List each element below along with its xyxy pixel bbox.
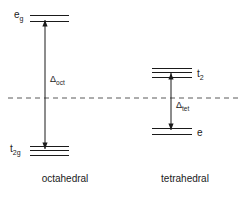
t2-level-label: t2 xyxy=(197,68,204,81)
delta-oct-subscript: oct xyxy=(56,79,65,86)
delta-tet-arrow xyxy=(168,73,173,130)
arrow-head-up xyxy=(168,73,173,80)
octahedral-caption: octahedral xyxy=(42,173,89,184)
t2g-level-label: t2g xyxy=(10,143,21,157)
tetrahedral-caption: tetrahedral xyxy=(161,173,209,184)
e-label-base: e xyxy=(197,127,203,138)
e-level-lines xyxy=(152,128,192,134)
t2g-level-lines xyxy=(30,146,69,155)
diagram-canvas: eg t2g Δoct octahedral t2 xyxy=(0,0,244,197)
t2-label-subscript: 2 xyxy=(200,74,204,81)
e-level-label: e xyxy=(197,127,203,138)
arrow-head-down xyxy=(168,124,173,131)
octahedral-field-group: eg t2g Δoct octahedral xyxy=(10,9,88,184)
tetrahedral-field-group: t2 e Δtet tetrahedral xyxy=(152,68,209,184)
eg-level-lines xyxy=(30,15,69,21)
eg-label-subscript: g xyxy=(20,15,24,23)
crystal-field-splitting-diagram: eg t2g Δoct octahedral t2 xyxy=(0,0,244,197)
delta-tet-label: Δtet xyxy=(176,100,189,112)
eg-level-label: eg xyxy=(14,9,24,23)
delta-oct-arrow xyxy=(42,20,47,149)
delta-oct-label: Δoct xyxy=(50,74,65,86)
t2g-label-subscript: 2g xyxy=(13,149,21,157)
delta-tet-subscript: tet xyxy=(182,105,189,112)
